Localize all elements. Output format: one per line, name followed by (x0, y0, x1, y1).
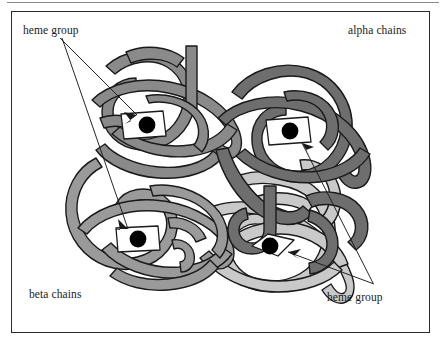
arrowhead-lower-right (288, 249, 301, 259)
beta-chain-lower-left (66, 158, 234, 290)
heme-group-upper-right (266, 117, 311, 145)
alpha-chain-upper-right (216, 65, 371, 274)
label-heme-group-top-left: heme group (23, 24, 79, 36)
label-heme-group-bottom-right: heme group (327, 291, 383, 303)
label-alpha-chains: alpha chains (348, 24, 406, 36)
label-beta-chains: beta chains (29, 288, 82, 300)
heme-group-lower-left (116, 226, 160, 252)
figure-root: heme group alpha chains beta chains heme… (0, 0, 446, 347)
